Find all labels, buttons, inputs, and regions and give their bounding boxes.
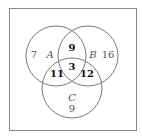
c-only-value: 9 (69, 103, 75, 114)
set-a-label: A (45, 49, 53, 60)
abc-value: 3 (69, 61, 76, 72)
a-only-value: 7 (31, 49, 37, 60)
venn-diagram: 7 A B 16 C 9 9 3 11 12 (0, 0, 142, 138)
b-only-value: 16 (102, 49, 115, 60)
set-c-label: C (68, 92, 76, 103)
ab-value: 9 (69, 42, 76, 53)
set-b-label: B (88, 49, 96, 60)
bc-value: 12 (80, 68, 94, 79)
ac-value: 11 (50, 68, 64, 79)
